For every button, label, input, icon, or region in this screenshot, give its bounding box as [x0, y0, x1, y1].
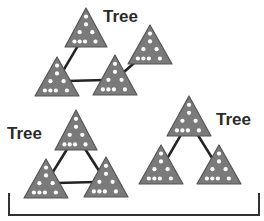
subtree-triangle-icon — [55, 110, 97, 150]
tree-nodes — [24, 8, 241, 198]
subtree-triangle-icon — [65, 8, 107, 47]
forest-diagram: Tree Tree Tree — [0, 0, 264, 221]
tree-label-lower-left: Tree — [7, 125, 42, 142]
subtree-triangle-icon — [139, 145, 183, 184]
subtree-triangle-icon — [84, 157, 128, 197]
subtree-triangle-icon — [128, 25, 172, 64]
subtree-triangle-icon — [35, 57, 79, 96]
subtree-triangle-icon — [167, 96, 211, 136]
tree-label-top: Tree — [103, 8, 138, 25]
subtree-triangle-icon — [197, 145, 241, 184]
subtree-triangle-icon — [24, 159, 68, 198]
tree-label-lower-right: Tree — [216, 111, 251, 128]
